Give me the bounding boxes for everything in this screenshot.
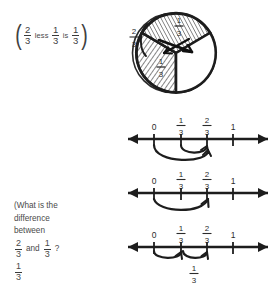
question-fraction-line: 2 3 and 1 3 ? bbox=[14, 240, 106, 260]
expression-fraction-two-thirds: 2 3 bbox=[24, 25, 31, 46]
tick-label-0: 0 bbox=[152, 230, 157, 240]
open-paren: ( bbox=[15, 22, 21, 49]
question-conjunction: and bbox=[26, 243, 40, 256]
tick-label-0: 0 bbox=[152, 122, 157, 132]
question-text-block: (What is the difference between 2 3 and … bbox=[14, 200, 106, 283]
expression-fraction-one-third: 1 3 bbox=[52, 25, 59, 46]
numerator: 1 bbox=[177, 16, 182, 25]
numerator: 1 bbox=[179, 170, 184, 179]
tick-label-one-third: 1 3 bbox=[177, 116, 186, 137]
denominator: 3 bbox=[159, 70, 164, 79]
jump-arc-small bbox=[181, 145, 209, 153]
fraction-expression: ( 2 3 less 1 3 is 1 3 ) bbox=[14, 22, 89, 49]
denominator: 3 bbox=[177, 29, 182, 38]
question-answer-fraction: 1 3 bbox=[15, 262, 22, 282]
tick-label-two-thirds: 2 3 bbox=[203, 170, 212, 191]
expression-connector-less: less bbox=[35, 31, 49, 40]
numerator: 2 bbox=[205, 170, 210, 179]
expression-result-fraction: 1 3 bbox=[72, 25, 79, 46]
numerator: 1 bbox=[179, 224, 184, 233]
right-arrowhead bbox=[258, 242, 268, 252]
number-line-1: 0 1 3 2 3 1 bbox=[118, 112, 276, 168]
denominator: 3 bbox=[15, 249, 22, 260]
left-arrowhead bbox=[128, 134, 138, 144]
close-paren: ) bbox=[82, 22, 88, 49]
question-mark: ? bbox=[55, 243, 60, 256]
tick-label-two-thirds: 2 3 bbox=[203, 116, 212, 137]
tick-label-1: 1 bbox=[231, 230, 236, 240]
question-fraction-b: 1 3 bbox=[44, 239, 51, 259]
tick-label-one-third: 1 3 bbox=[177, 170, 186, 191]
denominator: 3 bbox=[192, 276, 197, 285]
jump-hop-zero-to-one-third bbox=[154, 251, 182, 259]
denominator: 3 bbox=[24, 35, 31, 46]
denominator: 3 bbox=[72, 35, 79, 46]
jump-arc-zero-to-two-thirds bbox=[154, 199, 209, 210]
numerator: 1 bbox=[159, 57, 164, 66]
number-line-2: 0 1 3 2 3 1 bbox=[118, 166, 276, 220]
numerator: 1 bbox=[72, 25, 79, 35]
worksheet-figure: ( 2 3 less 1 3 is 1 3 ) (What is the dif… bbox=[0, 0, 278, 285]
question-line-1: (What is the bbox=[14, 200, 106, 213]
question-answer-line: 1 3 bbox=[14, 263, 106, 283]
below-label-one-third: 1 3 bbox=[190, 264, 199, 284]
right-arrowhead bbox=[258, 134, 268, 144]
expression-connector-is: is bbox=[63, 31, 69, 40]
right-arrowhead bbox=[258, 188, 268, 198]
denominator: 3 bbox=[52, 35, 59, 46]
numerator: 1 bbox=[52, 25, 59, 35]
numerator: 1 bbox=[179, 116, 184, 125]
tick-label-0: 0 bbox=[152, 176, 157, 186]
question-line-2: difference bbox=[14, 213, 106, 226]
numerator: 1 bbox=[44, 239, 51, 248]
numerator: 2 bbox=[15, 239, 22, 248]
fraction-circle-diagram: 2 3 1 3 1 3 bbox=[126, 4, 226, 100]
tick-label-1: 1 bbox=[231, 122, 236, 132]
left-arrowhead bbox=[128, 242, 138, 252]
numerator: 2 bbox=[205, 116, 210, 125]
question-line-3: between bbox=[14, 225, 106, 238]
left-arrowhead bbox=[128, 188, 138, 198]
question-fraction-a: 2 3 bbox=[15, 239, 22, 259]
tick-label-two-thirds: 2 3 bbox=[203, 224, 212, 245]
numerator: 2 bbox=[205, 224, 210, 233]
numerator: 1 bbox=[192, 264, 197, 273]
numerator: 1 bbox=[15, 262, 22, 271]
jump-hop-one-third-to-two-thirds bbox=[183, 251, 208, 259]
numerator: 2 bbox=[24, 25, 31, 35]
number-line-3: 0 1 3 2 3 1 bbox=[118, 220, 276, 284]
denominator: 3 bbox=[44, 249, 51, 260]
denominator: 3 bbox=[132, 40, 137, 49]
tick-label-1: 1 bbox=[231, 176, 236, 186]
numerator: 2 bbox=[132, 27, 137, 36]
tick-label-one-third: 1 3 bbox=[177, 224, 186, 245]
denominator: 3 bbox=[15, 272, 22, 283]
